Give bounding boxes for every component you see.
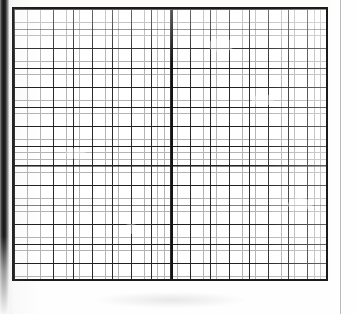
major-row-gridlines bbox=[14, 9, 326, 279]
right-margin-rule bbox=[340, 0, 341, 314]
bottom-margin bbox=[9, 283, 356, 314]
heavy-vertical-rule bbox=[171, 9, 173, 279]
right-margin bbox=[330, 0, 356, 314]
book-spine-shadow-fade bbox=[0, 236, 9, 314]
graph-paper-grid bbox=[12, 7, 328, 281]
scanned-page bbox=[0, 0, 356, 314]
